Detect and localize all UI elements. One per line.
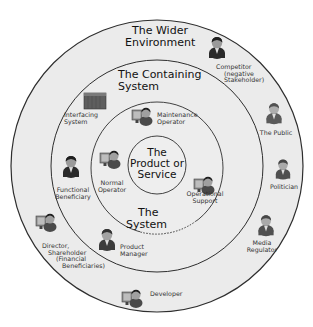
label-interfacing-system: Interfacing System <box>64 112 114 125</box>
label-functional-beneficiary: Functional Beneficiary <box>48 187 98 200</box>
ring-title-line: Service <box>127 169 187 180</box>
interfacing-system-box-icon <box>84 93 106 109</box>
ring-title-line: System <box>126 219 176 231</box>
label-politician: Politician <box>264 184 304 191</box>
label-line: Support <box>180 198 230 205</box>
ring-title-the-system: The System <box>126 207 176 230</box>
label-media-regulator: Media Regulator <box>232 240 292 253</box>
label-line: The Public <box>256 130 296 137</box>
label-line: Stakeholder) <box>216 77 276 84</box>
label-product-manager: Product Manager <box>120 244 160 257</box>
label-line: Beneficiary <box>48 194 98 201</box>
label-line: Operator <box>157 119 207 126</box>
label-the-public: The Public <box>256 130 296 137</box>
label-maintenance-operator: Maintenance Operator <box>157 112 207 125</box>
label-normal-operator: Normal Operator <box>92 180 132 193</box>
label-developer: Developer <box>150 291 190 298</box>
label-director-shareholder: Director, Shareholder (Financial Benefic… <box>36 243 116 269</box>
label-line: Manager <box>120 251 160 258</box>
label-line: Developer <box>150 291 190 298</box>
ring-title-line: The <box>126 207 176 219</box>
ring-title-line: System <box>118 81 208 93</box>
label-competitor: Competitor (negative Stakeholder) <box>216 64 276 84</box>
label-line: System <box>64 119 114 126</box>
label-line: Beneficiaries) <box>36 263 116 270</box>
label-operational-support: Operational Support <box>180 191 230 204</box>
ring-title-line: The Wider <box>125 25 195 37</box>
ring-title-wider-environment: The Wider Environment <box>125 25 195 48</box>
ring-title-line: The Containing <box>118 69 208 81</box>
ring-title-line: Environment <box>125 37 195 49</box>
ring-title-containing-system: The Containing System <box>118 69 208 92</box>
label-line: Politician <box>264 184 304 191</box>
label-line: Regulator <box>232 247 292 254</box>
ring-title-product-or-service: The Product or Service <box>127 147 187 180</box>
label-line: Operator <box>92 187 132 194</box>
